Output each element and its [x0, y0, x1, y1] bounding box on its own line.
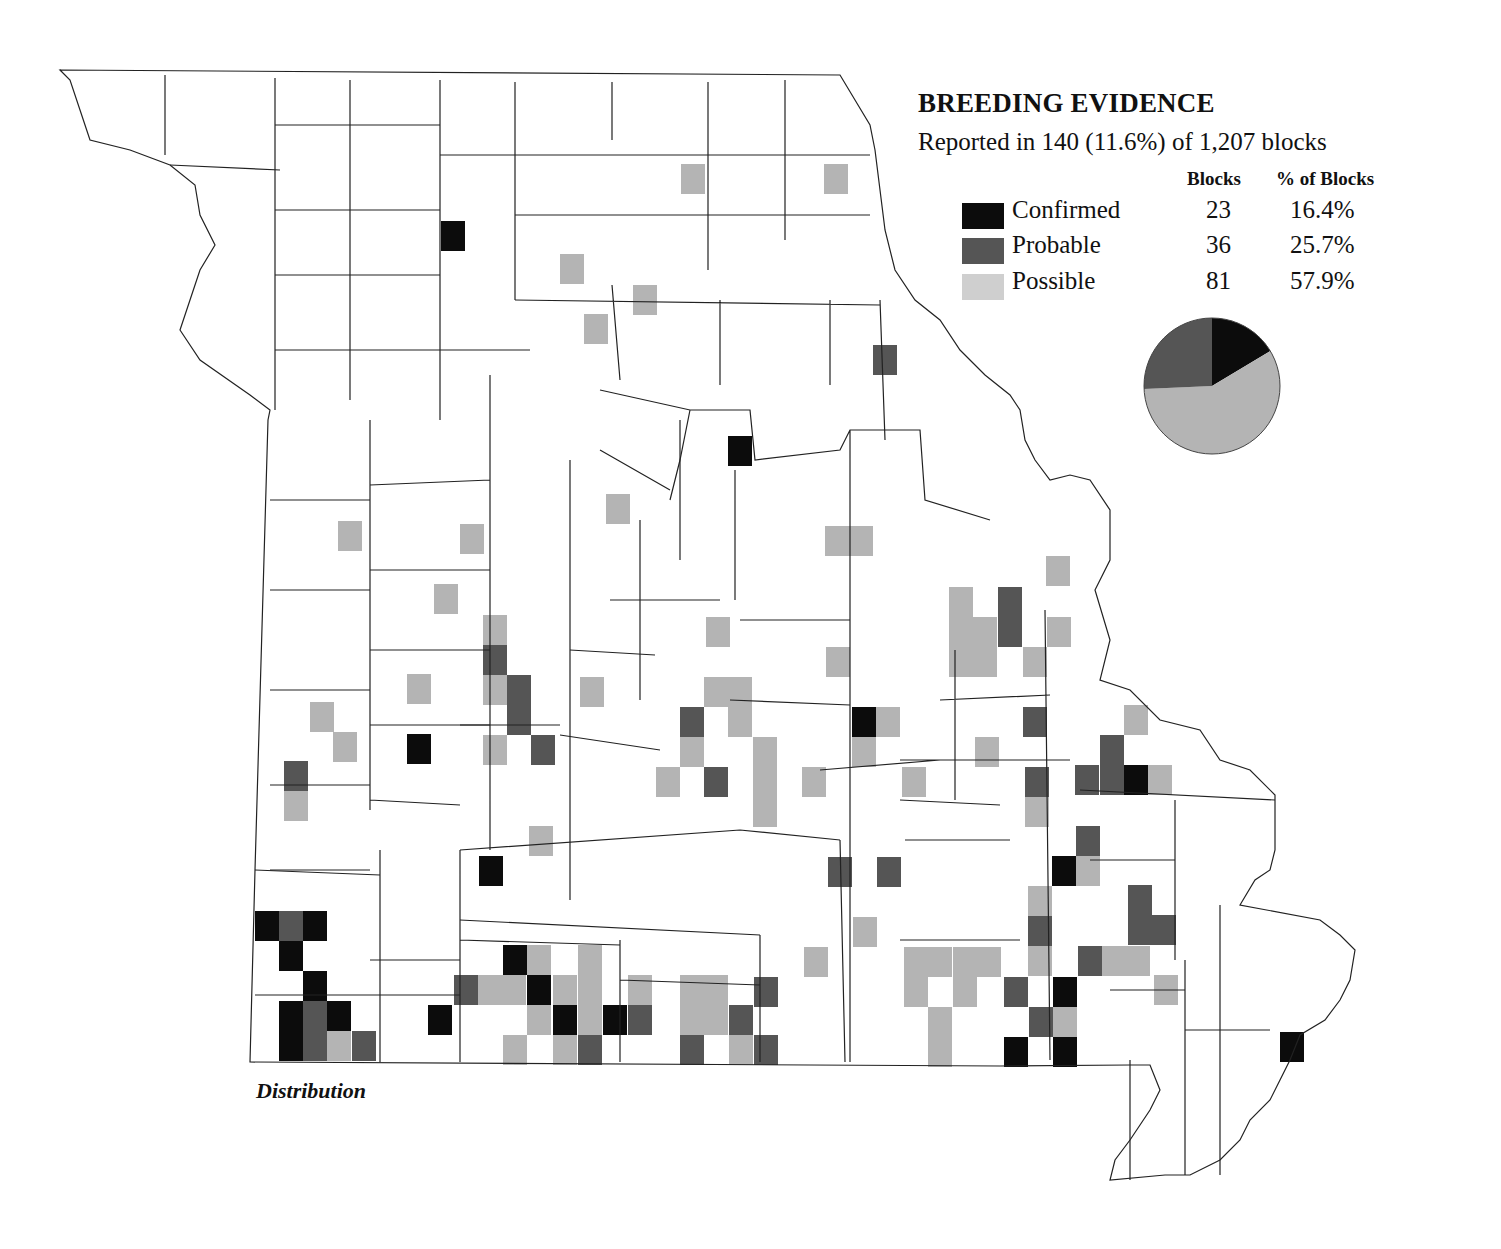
probable-block [1100, 765, 1124, 795]
possible-block [876, 707, 900, 737]
legend-row-probable: Probable 36 25.7% [962, 231, 1422, 265]
legend-label: Confirmed [1012, 196, 1120, 224]
possible-block [284, 791, 308, 821]
probable-block [628, 1005, 652, 1035]
probable-block [704, 767, 728, 797]
probable-block [754, 1035, 778, 1065]
probable-block [578, 1035, 602, 1065]
possible-block [728, 677, 752, 707]
possible-block [902, 767, 926, 797]
legend-blocks: 36 [1206, 231, 1231, 259]
legend-pct: 16.4% [1290, 196, 1355, 224]
legend-subtitle: Reported in 140 (11.6%) of 1,207 blocks [918, 128, 1327, 156]
confirmed-block [728, 436, 752, 466]
probable-block [998, 617, 1022, 647]
legend-row-confirmed: Confirmed 23 16.4% [962, 196, 1422, 230]
pie-slices [1144, 318, 1280, 454]
possible-block [434, 584, 458, 614]
possible-block [1148, 765, 1172, 795]
possible-block [928, 1037, 952, 1067]
confirmed-block [441, 221, 465, 251]
probable-block [454, 975, 478, 1005]
probable-block [531, 735, 555, 765]
possible-block [973, 647, 997, 677]
possible-block [753, 767, 777, 797]
possible-block [478, 975, 502, 1005]
confirmed-block [279, 1031, 303, 1061]
probable-block [1078, 946, 1102, 976]
possible-block [949, 617, 973, 647]
confirmed-block [527, 975, 551, 1005]
possible-block [553, 975, 577, 1005]
possible-block [825, 526, 849, 556]
probable-block [680, 707, 704, 737]
legend-pct: 25.7% [1290, 231, 1355, 259]
probable-block [754, 977, 778, 1007]
probable-block [1025, 767, 1049, 797]
possible-block [333, 732, 357, 762]
possible-block [953, 947, 977, 977]
possible-block [553, 1035, 577, 1065]
possible-block [1047, 617, 1071, 647]
confirmed-block [503, 945, 527, 975]
possible-block [1102, 946, 1126, 976]
possible-block [680, 737, 704, 767]
possible-block [704, 1005, 728, 1035]
possible-block [503, 1035, 527, 1065]
possible-block [633, 285, 657, 315]
possible-block [728, 707, 752, 737]
probable-block [877, 857, 901, 887]
legend-blocks: 81 [1206, 267, 1231, 295]
probable-block [352, 1031, 376, 1061]
possible-block [327, 1031, 351, 1061]
probable-block [1004, 977, 1028, 1007]
possible-block [338, 521, 362, 551]
confirmed-block [1053, 977, 1077, 1007]
probable-block [507, 705, 531, 735]
pie-slice-probable [1144, 318, 1212, 389]
possible-block [904, 977, 928, 1007]
possible-block [949, 647, 973, 677]
confirmed-block [428, 1005, 452, 1035]
possible-block [802, 767, 826, 797]
possible-block [824, 164, 848, 194]
confirmed-block [303, 971, 327, 1001]
possible-block [529, 826, 553, 856]
possible-block [483, 735, 507, 765]
legend-pct: 57.9% [1290, 267, 1355, 295]
possible-block [560, 254, 584, 284]
probable-block [1076, 826, 1100, 856]
probable-block [1152, 915, 1176, 945]
legend-label: Probable [1012, 231, 1101, 259]
probable-block [507, 675, 531, 705]
possible-block [928, 1007, 952, 1037]
possible-block [628, 975, 652, 1005]
possible-block [1023, 647, 1047, 677]
possible-block [656, 767, 680, 797]
probable-block [729, 1005, 753, 1035]
possible-block [852, 737, 876, 767]
probable-swatch [962, 238, 1004, 264]
confirmed-block [255, 911, 279, 941]
possible-block [804, 947, 828, 977]
legend-blocks: 23 [1206, 196, 1231, 224]
possible-block [753, 737, 777, 767]
probable-block [998, 587, 1022, 617]
possible-block [904, 947, 928, 977]
possible-block [826, 647, 850, 677]
possible-block [680, 975, 704, 1005]
possible-block [729, 1035, 753, 1065]
possible-block [681, 164, 705, 194]
confirmed-block [1053, 1037, 1077, 1067]
confirmed-block [1052, 856, 1076, 886]
confirmed-block [603, 1005, 627, 1035]
possible-block [578, 975, 602, 1005]
confirmed-block [852, 707, 876, 737]
possible-block [1126, 946, 1150, 976]
possible-block [483, 675, 507, 705]
possible-block [606, 494, 630, 524]
confirmed-block [407, 734, 431, 764]
confirmed-block [303, 911, 327, 941]
possible-block [1124, 705, 1148, 735]
confirmed-block [1124, 765, 1148, 795]
